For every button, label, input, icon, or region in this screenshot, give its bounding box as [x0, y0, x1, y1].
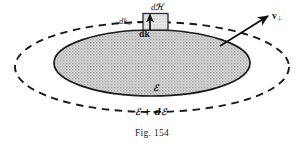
area-element-label: dℋ	[151, 3, 164, 12]
figure-drawing	[0, 0, 304, 147]
energy-outer-label: ℰ + dℰ	[135, 108, 166, 117]
energy-inner-label: ℰ	[153, 84, 158, 93]
velocity-subscript: ⊥	[277, 15, 282, 21]
velocity-perp-label: v⊥	[272, 12, 282, 22]
dk-perpendicular-label: dk⊥	[119, 17, 132, 26]
figure-caption: Fig. 154	[0, 128, 304, 138]
velocity-perp-arrow	[220, 16, 268, 46]
inner-energy-contour	[54, 30, 250, 96]
dk-vector-label: dk	[139, 30, 150, 40]
dk-perp-subscript: ⊥	[127, 20, 131, 26]
area-element-patch	[143, 14, 168, 31]
figure-container: dℋ dk⊥ dk v⊥ ℰ ℰ + dℰ Fig. 154	[0, 0, 304, 147]
